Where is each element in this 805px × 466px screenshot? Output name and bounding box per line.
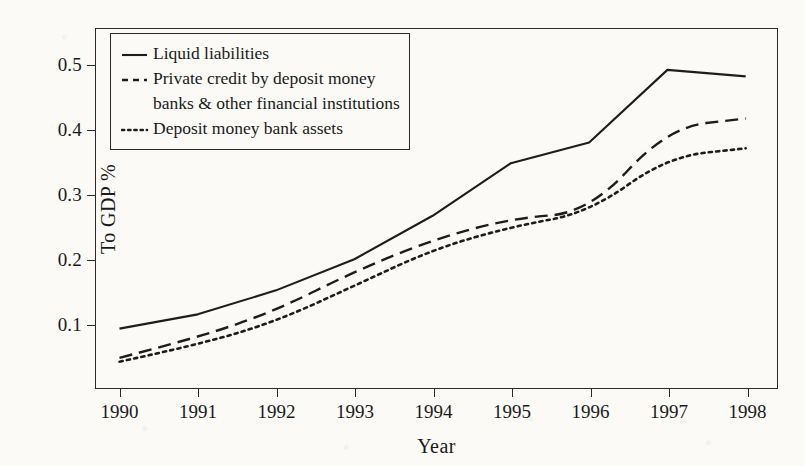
y-tick-0.5 xyxy=(87,65,96,66)
x-tick-label-1996: 1996 xyxy=(572,401,610,423)
x-tick-label-1995: 1995 xyxy=(493,401,531,423)
x-tick-label-1990: 1990 xyxy=(101,401,139,423)
x-tick-label-1994: 1994 xyxy=(415,401,453,423)
x-tick-1996 xyxy=(591,388,592,397)
y-tick-0.1 xyxy=(87,325,96,326)
x-tick-1997 xyxy=(669,388,670,397)
legend-label-3: Deposit money bank assets xyxy=(153,116,399,141)
x-tick-1998 xyxy=(748,388,749,397)
legend-label-2-line2: banks & other financial institutions xyxy=(121,91,399,116)
y-tick-0.3 xyxy=(87,195,96,196)
legend-swatch-solid-icon xyxy=(121,41,153,66)
chart-figure: To GDP % 0.10.20.30.40.5 199019911992199… xyxy=(0,0,805,466)
legend-item-2: Private credit by deposit money xyxy=(121,66,399,91)
legend-label-1: Liquid liabilities xyxy=(153,41,399,66)
x-tick-label-1991: 1991 xyxy=(179,401,217,423)
x-tick-1992 xyxy=(277,388,278,397)
x-tick-label-1992: 1992 xyxy=(258,401,296,423)
x-tick-1993 xyxy=(355,388,356,397)
x-tick-1990 xyxy=(120,388,121,397)
series-line-dashed xyxy=(119,118,745,357)
legend-swatch-dotted-icon xyxy=(121,116,153,141)
x-tick-label-1993: 1993 xyxy=(336,401,374,423)
legend-item-3: Deposit money bank assets xyxy=(121,116,399,141)
y-tick-0.2 xyxy=(87,260,96,261)
y-tick-label-0.5: 0.5 xyxy=(58,54,82,76)
y-tick-label-0.4: 0.4 xyxy=(58,119,82,141)
x-tick-1995 xyxy=(512,388,513,397)
x-tick-1994 xyxy=(434,388,435,397)
y-tick-label-0.1: 0.1 xyxy=(58,314,82,336)
x-tick-label-1997: 1997 xyxy=(650,401,688,423)
legend-label-2: Private credit by deposit money xyxy=(153,66,399,91)
x-tick-label-1998: 1998 xyxy=(729,401,767,423)
chart-legend: Liquid liabilitiesPrivate credit by depo… xyxy=(110,33,410,150)
y-tick-label-0.2: 0.2 xyxy=(58,249,82,271)
legend-item-1: Liquid liabilities xyxy=(121,41,399,66)
series-line-dotted xyxy=(119,148,745,361)
y-tick-label-0.3: 0.3 xyxy=(58,184,82,206)
y-tick-0.4 xyxy=(87,130,96,131)
x-tick-1991 xyxy=(198,388,199,397)
x-axis-title: Year xyxy=(417,435,455,458)
legend-swatch-dashed-icon xyxy=(121,66,153,91)
